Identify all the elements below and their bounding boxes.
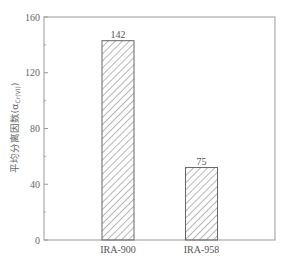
- plot-frame: [44, 17, 275, 240]
- y-tick-label: 80: [30, 123, 40, 134]
- bar-chart: 04080120160 142IRA-90075IRA-958 平均分离因数(α…: [0, 0, 287, 265]
- y-axis-tick-labels: 04080120160: [25, 12, 40, 246]
- bar-ira-900: 142IRA-900: [100, 29, 136, 255]
- y-axis-ticks: [44, 17, 48, 240]
- x-category-label: IRA-900: [100, 244, 136, 255]
- bar-rect: [102, 41, 134, 240]
- x-category-label: IRA-958: [184, 244, 220, 255]
- y-tick-label: 160: [25, 12, 40, 23]
- y-tick-label: 120: [25, 67, 40, 78]
- y-tick-label: 0: [35, 235, 40, 246]
- bar-ira-958: 75IRA-958: [184, 156, 220, 255]
- bar-value-label: 75: [197, 156, 207, 167]
- y-tick-label: 40: [30, 179, 40, 190]
- bar-rect: [186, 168, 218, 240]
- y-axis-title: 平均分离因数(αCr(VI)): [9, 83, 21, 174]
- bar-value-label: 142: [111, 29, 126, 40]
- bars: 142IRA-90075IRA-958: [100, 29, 219, 255]
